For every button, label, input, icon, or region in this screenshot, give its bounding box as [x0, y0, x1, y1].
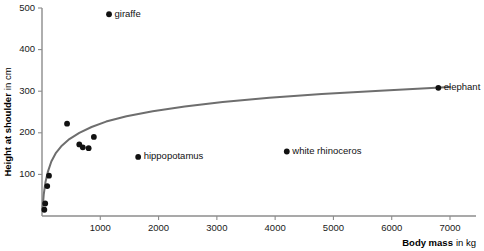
data-point	[86, 145, 92, 151]
data-point	[41, 207, 47, 213]
scatter-plot: 100200300400500 100020003000400050006000…	[0, 0, 484, 251]
fit-curve-path	[43, 87, 450, 208]
x-tick-label: 7000	[439, 222, 460, 233]
x-tick-label: 2000	[148, 222, 169, 233]
data-point	[435, 85, 441, 91]
data-point	[91, 134, 97, 140]
x-axis-title-main: Body mass	[402, 237, 453, 248]
x-tick-label: 3000	[206, 222, 227, 233]
data-point	[44, 183, 50, 189]
data-points: giraffehippopotamuswhite rhinoceroseleph…	[41, 8, 480, 213]
chart-container: 100200300400500 100020003000400050006000…	[0, 0, 484, 251]
data-point	[80, 144, 86, 150]
data-point	[106, 11, 112, 17]
y-axis-title-main: Height at shoulder	[2, 93, 13, 177]
x-tick-label: 4000	[265, 222, 286, 233]
y-tick-label: 100	[19, 168, 35, 179]
data-point-label: giraffe	[115, 8, 141, 19]
data-point	[64, 121, 70, 127]
y-tick-label: 500	[19, 2, 35, 13]
data-point	[42, 201, 48, 207]
x-tick-label: 6000	[381, 222, 402, 233]
y-axis: 100200300400500	[19, 2, 42, 216]
x-axis-title-unit: in kg	[456, 237, 476, 248]
data-point	[284, 149, 290, 155]
y-tick-label: 400	[19, 43, 35, 54]
y-tick-label: 300	[19, 85, 35, 96]
y-axis-title-unit: in cm	[2, 67, 13, 90]
y-axis-title: Height at shoulderin cm	[2, 67, 13, 176]
data-point-label: hippopotamus	[144, 150, 204, 161]
x-tick-label: 1000	[90, 222, 111, 233]
x-axis-title: Body massin kg	[402, 237, 476, 248]
data-point-label: white rhinoceros	[291, 145, 361, 156]
data-point	[46, 173, 52, 179]
x-tick-label: 5000	[323, 222, 344, 233]
x-axis: 1000200030004000500060007000	[42, 216, 476, 233]
data-point	[135, 154, 141, 160]
fit-curve	[43, 87, 450, 208]
y-tick-label: 200	[19, 126, 35, 137]
data-point-label: elephant	[444, 81, 481, 92]
